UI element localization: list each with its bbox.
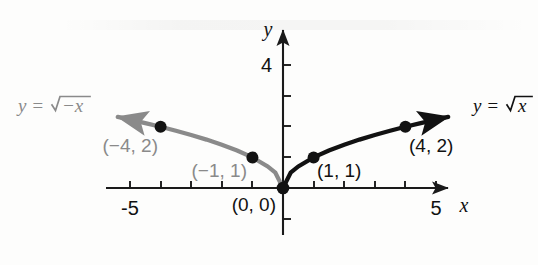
equation-left-radicand: −x	[62, 95, 84, 116]
svg-text:y =: y =	[16, 95, 44, 116]
equation-label-sqrt-x: y = x	[471, 95, 532, 116]
point-label-1-1: (1, 1)	[317, 160, 361, 181]
point-neg1-1-dot	[246, 151, 258, 163]
point-label-neg1-1: (−1, 1)	[192, 160, 247, 181]
equation-right-radicand: x	[517, 95, 527, 116]
y-axis-label: y	[262, 18, 273, 41]
equation-right-lhs: y =	[471, 95, 499, 116]
x-tick-label-neg5: -5	[121, 197, 139, 219]
point-label-origin: (0, 0)	[232, 194, 276, 215]
square-root-function-graph: -5 5 4 x y (0, 0) (1, 1) (4, 2) (−1, 1) …	[0, 0, 538, 265]
point-label-4-2: (4, 2)	[409, 135, 453, 156]
y-tick-label-4: 4	[261, 54, 272, 76]
point-label-neg4-2: (−4, 2)	[103, 135, 158, 156]
y-axis-ticks	[283, 65, 291, 219]
graph-svg: -5 5 4 x y (0, 0) (1, 1) (4, 2) (−1, 1) …	[0, 0, 538, 265]
svg-text:y =: y =	[471, 95, 499, 116]
equation-label-sqrt-neg-x: y = −x	[16, 95, 90, 116]
x-tick-label-pos5: 5	[430, 197, 441, 219]
equation-left-lhs: y =	[16, 95, 44, 116]
point-neg4-2-dot	[155, 121, 167, 133]
x-axis-label: x	[459, 194, 469, 216]
point-4-2-dot	[399, 121, 411, 133]
point-origin-dot	[277, 182, 290, 195]
